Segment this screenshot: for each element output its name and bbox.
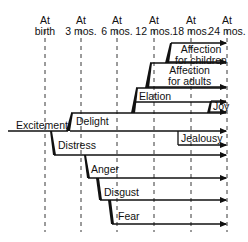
label-line: for children	[175, 55, 227, 66]
header-label: 3 mos.	[65, 26, 97, 37]
header-label: 24 mos.	[208, 26, 245, 37]
label-anger: Anger	[91, 164, 119, 175]
header-24-mos: At 24 mos.	[208, 15, 245, 37]
label-distress: Distress	[58, 140, 96, 151]
emotional-development-diagram: At birth At 3 mos. At 6 mos. At 12 mos. …	[0, 0, 248, 242]
label-fear: Fear	[118, 211, 140, 222]
header-birth: At birth	[35, 15, 55, 37]
header-12-mos: At 12 mos.	[135, 15, 172, 37]
label-excitement: Excitement	[16, 120, 68, 131]
label-affection-for-adults: Affection for adults	[168, 65, 211, 87]
label-delight: Delight	[76, 116, 109, 127]
header-label: birth	[35, 26, 55, 37]
header-label: 6 mos.	[101, 26, 133, 37]
label-elation: Elation	[139, 91, 171, 102]
label-jealousy: Jealousy	[181, 133, 222, 144]
header-6-mos: At 6 mos.	[101, 15, 133, 37]
header-18-mos: At 18 mos.	[172, 15, 209, 37]
label-disgust: Disgust	[104, 187, 139, 198]
label-joy: Joy	[213, 101, 229, 112]
label-affection-for-children: Affection for children	[175, 44, 227, 66]
header-label: 12 mos.	[135, 26, 172, 37]
header-3-mos: At 3 mos.	[65, 15, 97, 37]
header-label: 18 mos.	[172, 26, 209, 37]
label-line: for adults	[168, 76, 211, 87]
